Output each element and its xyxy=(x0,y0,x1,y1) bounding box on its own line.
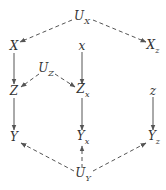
node-yx-sub: x xyxy=(85,137,90,146)
edge-uy-to-y xyxy=(21,143,74,171)
node-xz-base: X xyxy=(147,38,156,52)
node-y-base: Y xyxy=(10,130,18,144)
node-yz: Yz xyxy=(148,130,160,145)
node-xz-sub: z xyxy=(155,46,159,55)
node-yx: Yx xyxy=(77,130,89,145)
node-z-lower-base: z xyxy=(150,84,156,98)
node-z-base: Z xyxy=(10,84,18,98)
node-uz-base: U xyxy=(38,61,48,75)
node-uy: UY xyxy=(75,167,90,182)
node-xz: Xz xyxy=(147,39,160,54)
node-ux-sub: X xyxy=(84,17,90,26)
edge-uy-to-yz xyxy=(93,143,146,171)
node-yz-base: Y xyxy=(148,129,156,143)
node-z: Z xyxy=(10,85,18,97)
edge-ux-to-x xyxy=(20,20,72,42)
node-ux: UX xyxy=(74,10,90,25)
node-x: X xyxy=(10,40,19,52)
edge-uz-to-zx xyxy=(55,74,75,87)
node-z-lower: z xyxy=(150,85,156,97)
node-yz-sub: z xyxy=(156,137,160,146)
node-uy-sub: Y xyxy=(85,174,90,183)
node-ux-base: U xyxy=(74,9,84,23)
node-uy-base: U xyxy=(75,166,85,180)
node-y: Y xyxy=(10,131,18,143)
node-uz: UZ xyxy=(38,62,54,77)
edge-ux-to-xz xyxy=(93,20,146,42)
node-yx-base: Y xyxy=(77,129,85,143)
node-x-lower: x xyxy=(79,40,86,52)
node-zx-sub: x xyxy=(85,90,90,99)
node-zx: Zx xyxy=(77,83,90,98)
node-x-lower-base: x xyxy=(79,39,86,53)
node-uz-sub: Z xyxy=(48,69,54,78)
edge-uz-to-z xyxy=(21,74,39,87)
node-x-base: X xyxy=(10,39,19,53)
